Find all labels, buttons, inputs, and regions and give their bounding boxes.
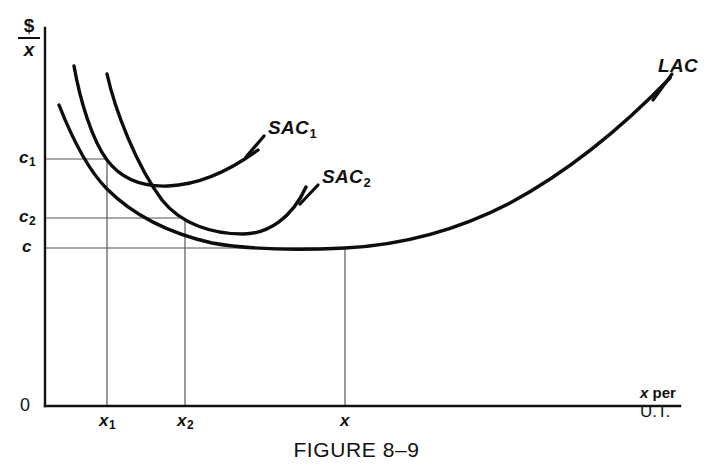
quantity-tick-x: x <box>340 412 350 431</box>
y-axis-denominator: x <box>12 40 46 60</box>
curve-label-lac: LAC <box>658 56 698 78</box>
quantity-tick-x2: x2 <box>177 412 194 431</box>
cost-tick-c1: c1 <box>19 149 36 168</box>
quantity-tick-x2-base: x <box>177 411 186 430</box>
sac1-curve <box>74 66 258 186</box>
x-axis-label-per: per <box>648 384 676 401</box>
cost-tick-c2: c2 <box>19 208 36 227</box>
curve-label-sac2-subscript: 2 <box>364 175 372 190</box>
x-axis-label: x per U.T. <box>640 385 676 421</box>
cost-tick-c1-subscript: 1 <box>29 155 36 169</box>
cost-tick-c-base: c <box>22 237 31 256</box>
origin-label: 0 <box>20 396 30 414</box>
axes <box>45 28 680 406</box>
curve-label-sac1: SAC1 <box>268 118 317 140</box>
y-axis-label: $ x <box>12 16 46 60</box>
sac2-curve <box>107 74 306 234</box>
leader-line-lac <box>653 74 672 100</box>
cost-tick-c: c <box>22 238 32 257</box>
cost-tick-c2-subscript: 2 <box>29 214 36 228</box>
figure-caption: FIGURE 8–9 <box>0 438 713 462</box>
x-axis-label-line1: x per <box>640 385 676 402</box>
x-axis-label-line2: U.T. <box>640 402 676 421</box>
figure-canvas <box>0 0 713 475</box>
curve-label-lac-base: LAC <box>658 55 698 76</box>
quantity-tick-x2-subscript: 2 <box>187 418 194 432</box>
cost-tick-c1-base: c <box>19 148 28 167</box>
y-axis-numerator: $ <box>12 16 46 36</box>
cost-tick-c2-base: c <box>19 207 28 226</box>
quantity-tick-x-base: x <box>340 411 349 430</box>
figure-8-9: $ x 0 c1 c2 c x1 x2 x SAC1 SAC2 LAC x pe… <box>0 0 713 475</box>
curve-label-sac2-base: SAC <box>322 166 363 187</box>
curve-label-sac1-subscript: 1 <box>310 126 318 141</box>
quantity-tick-x1-base: x <box>99 411 108 430</box>
lac-curve <box>59 78 670 249</box>
quantity-tick-x1: x1 <box>99 412 116 431</box>
curve-label-sac2: SAC2 <box>322 167 371 189</box>
quantity-tick-x1-subscript: 1 <box>109 418 116 432</box>
curve-label-sac1-base: SAC <box>268 117 309 138</box>
